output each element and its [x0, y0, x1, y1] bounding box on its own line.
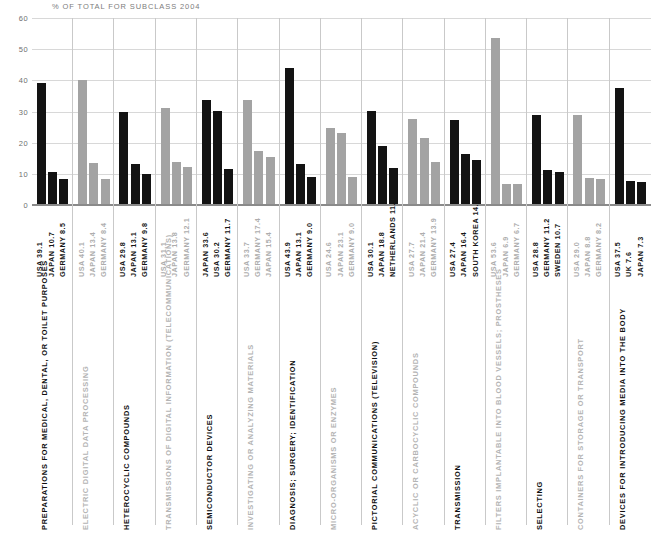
- bar: [243, 100, 252, 205]
- bar: [213, 111, 222, 205]
- bar: [285, 68, 294, 205]
- category-label: ACYCLIC OR CARBOCYCLIC COMPOUNDS: [411, 352, 420, 530]
- bar-value-label: USA 29.0: [572, 242, 581, 277]
- bar-value-label: NETHERLANDS 11.9: [388, 198, 397, 277]
- bar: [119, 112, 128, 205]
- bar: [254, 151, 263, 205]
- bar: [142, 174, 151, 205]
- category-labels: PREPARATIONS FOR MEDICAL, DENTAL, OR TOI…: [32, 282, 651, 532]
- bar-value-label: JAPAN 21.4: [418, 232, 427, 277]
- category-label: DEVICES FOR INTRODUCING MEDIA INTO THE B…: [618, 308, 627, 530]
- bar-value-label: JAPAN 7.3: [636, 236, 645, 277]
- bar-value-label: GERMANY 6.7: [512, 222, 521, 277]
- bar: [532, 115, 541, 205]
- bar: [543, 170, 552, 205]
- bar-value-label: USA 27.7: [407, 242, 416, 277]
- bar-value-label: GERMANY 8.5: [58, 222, 67, 277]
- bar: [78, 80, 87, 205]
- bar-value-label: GERMANY 11.2: [542, 218, 551, 277]
- bar-value-label: USA 33.7: [242, 242, 251, 277]
- bar-value-label: SWEDEN 10.7: [553, 223, 562, 277]
- bar: [431, 162, 440, 205]
- bar-value-label: GERMANY 11.7: [223, 218, 232, 277]
- bar: [555, 172, 564, 205]
- bar: [131, 164, 140, 205]
- bar: [573, 115, 582, 205]
- bar: [615, 88, 624, 205]
- chart-title: % OF TOTAL FOR SUBCLASS 2004: [52, 2, 200, 11]
- bar-value-label: GERMANY 9.0: [347, 222, 356, 277]
- bar: [183, 167, 192, 205]
- bar-value-label: JAPAN 15.4: [264, 232, 273, 277]
- category-label: PREPARATIONS FOR MEDICAL, DENTAL, OR TOI…: [40, 260, 49, 530]
- bar-value-label: USA 30.1: [366, 242, 375, 277]
- category-label: SELECTING: [535, 481, 544, 530]
- category-label: FILTERS IMPLANTABLE INTO BLOOD VESSELS; …: [494, 268, 503, 530]
- x-axis-baseline: [32, 204, 651, 205]
- y-axis-tick-label: 30: [4, 108, 28, 117]
- y-axis-tick-label: 0: [4, 201, 28, 210]
- bar: [48, 172, 57, 205]
- bar-value-label: GERMANY 9.8: [140, 222, 149, 277]
- bar-value-label: GERMANY 17.4: [253, 218, 262, 277]
- bar-value-label: USA 30.2: [212, 242, 221, 277]
- bar: [202, 100, 211, 205]
- category-label: TRANSMISSIONS OF DIGITAL INFORMATION (TE…: [164, 234, 173, 530]
- bar-value-label: USA 24.6: [324, 242, 333, 277]
- bar: [172, 162, 181, 205]
- bar-value-label: USA 40.1: [77, 242, 86, 277]
- bar: [420, 138, 429, 205]
- bar-value-label: JAPAN 18.8: [377, 232, 386, 277]
- bar-value-label: JAPAN 33.6: [201, 232, 210, 277]
- y-axis-tick-label: 20: [4, 139, 28, 148]
- bar: [101, 179, 110, 205]
- bar-value-label: GERMANY 13.9: [429, 218, 438, 277]
- bar: [513, 184, 522, 205]
- bar-value-label: GERMANY 8.2: [594, 222, 603, 277]
- bar: [367, 111, 376, 205]
- category-label: MICRO-ORGANISMS OR ENZYMES: [329, 387, 338, 530]
- category-label: INVESTIGATING OR ANALYZING MATERIALS: [246, 344, 255, 530]
- bar: [266, 157, 275, 205]
- bar-value-label: GERMANY 12.1: [182, 218, 191, 277]
- bar-value-label: USA 28.8: [531, 242, 540, 277]
- y-axis-tick-label: 60: [4, 14, 28, 23]
- bar-value-label: GERMANY 9.0: [305, 222, 314, 277]
- bar-value-label: USA 27.4: [448, 242, 457, 277]
- bar-value-label: SOUTH KOREA 14.5: [471, 199, 480, 277]
- bar: [37, 83, 46, 205]
- bar: [472, 160, 481, 205]
- category-label: DIAGNOSIS; SURGERY; IDENTIFICATION: [288, 360, 297, 530]
- bar: [59, 179, 68, 205]
- bar-value-label: JAPAN 16.4: [459, 232, 468, 277]
- bar: [502, 184, 511, 206]
- bar: [378, 146, 387, 205]
- bar: [348, 177, 357, 205]
- bar-value-label: JAPAN 23.1: [336, 232, 345, 277]
- bar: [596, 179, 605, 205]
- bar-value-label: JAPAN 13.1: [129, 232, 138, 277]
- bar: [408, 119, 417, 205]
- bar: [626, 181, 635, 205]
- y-axis-tick-label: 40: [4, 76, 28, 85]
- bar: [637, 182, 646, 205]
- bar: [161, 108, 170, 205]
- category-label: PICTORIAL COMMUNICATIONS (TELEVISION): [370, 341, 379, 530]
- y-axis-tick-label: 10: [4, 170, 28, 179]
- bar: [491, 38, 500, 205]
- bar-value-label: GERMANY 8.4: [99, 222, 108, 277]
- bar-value-label: USA 37.5: [613, 242, 622, 277]
- gridline: [32, 80, 651, 81]
- bar-value-label: UK 7.6: [624, 251, 633, 277]
- bar: [307, 177, 316, 205]
- bar: [224, 169, 233, 205]
- gridline: [32, 18, 651, 19]
- category-label: ELECTRIC DIGITAL DATA PROCESSING: [81, 366, 90, 530]
- bar-value-labels: USA 39.1JAPAN 10.7GERMANY 8.5USA 40.1JAP…: [32, 206, 651, 278]
- bar: [326, 128, 335, 205]
- category-label: TRANSMISSION: [453, 464, 462, 530]
- bar-value-label: USA 29.8: [118, 242, 127, 277]
- bar: [337, 133, 346, 205]
- bar-value-label: JAPAN 13.4: [88, 232, 97, 277]
- bar: [461, 154, 470, 205]
